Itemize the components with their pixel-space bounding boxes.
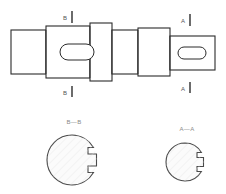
shaft-segment-left-end-journal [11,30,46,74]
callout-a-top: A [181,14,190,26]
callout-b-top: B [63,11,72,23]
shaft-segment-mid-journal [112,30,138,74]
shaft-front-view [11,23,215,81]
section-bb-hatching [45,133,101,189]
shaft-segment-taper-step [138,28,170,76]
technical-drawing-canvas: B B A A B—B [0,0,226,194]
callout-letter: B [63,90,67,96]
callout-a-bottom: A [181,82,190,93]
callout-letter: A [181,86,185,92]
right-keyway-slot [178,47,206,59]
callout-b-bottom: B [63,86,72,97]
section-view-b-b: B—B [45,119,101,189]
callout-letter: B [63,15,67,21]
section-aa-hatching [164,141,208,185]
section-view-a-a: A—A [164,126,208,185]
section-bb-title: B—B [66,119,81,125]
callout-letter: A [181,18,185,24]
left-keyway-slot [60,44,94,60]
section-aa-title: A—A [179,126,194,132]
drawing-sheet: B B A A B—B [0,0,226,194]
